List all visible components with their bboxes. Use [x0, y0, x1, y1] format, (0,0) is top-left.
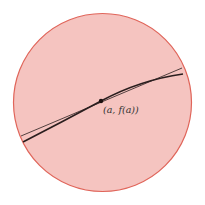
- magnified-diagram: [0, 0, 205, 205]
- point-marker: [99, 99, 103, 103]
- point-label: (a, f(a)): [103, 104, 139, 115]
